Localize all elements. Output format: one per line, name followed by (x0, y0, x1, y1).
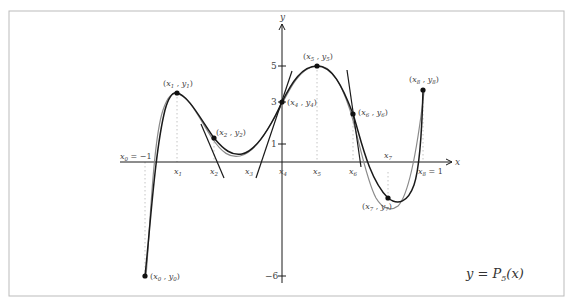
point-4 (279, 99, 284, 104)
point-7 (385, 195, 390, 200)
y-tick-3: 3 (271, 97, 277, 107)
point-5 (314, 63, 319, 68)
x-axis-label: x (455, 157, 460, 167)
interpolation-figure: 5 3 1 −6 y x x0 = −1 x8 = 1 x1 x2 x3 x4 … (0, 0, 570, 308)
y-tick-5: 5 (271, 61, 277, 71)
y-tick-neg6: −6 (265, 271, 279, 281)
x8-label: x8 = 1 (418, 167, 443, 177)
point-0 (142, 273, 147, 278)
equation-label: y = P5(x) (465, 266, 524, 283)
y-tick-1: 1 (271, 139, 277, 149)
plot-canvas: 5 3 1 −6 y x x0 = −1 x8 = 1 x1 x2 x3 x4 … (0, 0, 570, 308)
point-6 (350, 111, 355, 116)
point-1 (174, 90, 179, 95)
point-8 (420, 87, 425, 92)
figure-frame (9, 11, 564, 296)
y-axis-label: y (279, 12, 286, 22)
